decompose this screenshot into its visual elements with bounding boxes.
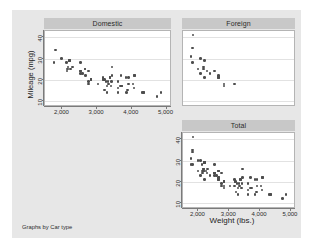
data-point [234, 180, 237, 183]
data-point [197, 68, 200, 71]
data-point [106, 91, 109, 94]
data-point [202, 66, 205, 69]
data-point [199, 174, 202, 177]
data-point [281, 197, 284, 200]
data-point [111, 66, 114, 69]
data-point [117, 80, 120, 83]
data-point [202, 68, 205, 71]
data-point [79, 61, 82, 64]
data-point [241, 182, 244, 185]
data-point [156, 95, 159, 98]
y-tick-label: 20 [175, 180, 181, 187]
data-point [192, 136, 195, 139]
y-axis-total: 10203040 [170, 132, 182, 208]
y-tick-label: 10 [175, 201, 181, 208]
data-point [69, 68, 72, 71]
data-point [223, 187, 226, 190]
y-tick-label: 20 [37, 78, 43, 85]
data-point [233, 185, 236, 188]
data-point [110, 80, 113, 83]
data-point [285, 193, 288, 196]
data-point [79, 72, 82, 75]
data-point [191, 151, 194, 154]
graph-surface: Mileage (mpg) Domestic 10203040 2,0003,0… [12, 10, 301, 238]
data-point [254, 193, 257, 196]
data-point [250, 187, 253, 190]
x-tick-label: 5,000 [158, 109, 173, 115]
x-tick-label: 4,000 [123, 109, 138, 115]
data-point [203, 76, 206, 79]
data-point [217, 176, 220, 179]
data-point [202, 168, 205, 171]
data-point [107, 83, 110, 86]
data-point [191, 47, 194, 50]
data-point [87, 70, 90, 73]
data-point [109, 76, 112, 79]
panel-title-foreign: Foreign [182, 18, 295, 29]
data-point [87, 80, 90, 83]
x-axis-line [44, 106, 171, 107]
y-tick-label: 30 [37, 57, 43, 64]
data-point [213, 174, 216, 177]
data-point [206, 70, 209, 73]
data-point [199, 72, 202, 75]
gridline [183, 37, 294, 38]
data-point [191, 149, 194, 152]
data-point [241, 168, 244, 171]
data-point [160, 91, 163, 94]
data-point [190, 157, 193, 160]
data-point [247, 193, 250, 196]
data-point [238, 185, 241, 188]
x-tick-label: 3,000 [89, 109, 104, 115]
x-axis-title: Weight (lbs.) [162, 216, 302, 225]
data-point [60, 57, 63, 60]
data-point [197, 170, 200, 173]
data-point [203, 161, 206, 164]
data-point [199, 57, 202, 60]
data-point [106, 85, 109, 88]
gridline [183, 203, 294, 204]
data-point [84, 68, 87, 71]
data-point [239, 178, 242, 181]
data-point [233, 83, 236, 86]
plot-area-foreign [182, 30, 295, 106]
data-point [213, 163, 216, 166]
data-point [127, 83, 130, 86]
panel-total: Total 10203040 2,0003,0004,0005,000 [182, 120, 295, 208]
data-point [121, 85, 124, 88]
panel-title-domestic: Domestic [44, 18, 171, 29]
data-point [223, 85, 226, 88]
data-point [209, 174, 212, 177]
data-point [229, 185, 232, 188]
data-point [66, 70, 69, 73]
y-axis-line [181, 132, 182, 208]
panel-domestic: Domestic 10203040 2,0003,0004,0005,000 [44, 18, 171, 106]
data-point [203, 59, 206, 62]
y-tick-label: 10 [37, 99, 43, 106]
data-point [102, 78, 105, 81]
y-tick-label: 40 [175, 137, 181, 144]
data-point [247, 189, 250, 192]
data-point [190, 55, 193, 58]
data-point [237, 193, 240, 196]
data-point [256, 185, 259, 188]
data-point [84, 74, 87, 77]
gridline [45, 101, 170, 102]
panel-title-total: Total [182, 120, 295, 131]
data-point [117, 91, 120, 94]
data-point [191, 61, 194, 64]
y-tick-label: 40 [37, 35, 43, 42]
data-point [237, 187, 240, 190]
graph-footnote: Graphs by Car type [22, 224, 72, 230]
gridline [45, 59, 170, 60]
panel-foreign: Foreign [182, 18, 295, 106]
data-point [132, 83, 135, 86]
plot-area-total [182, 132, 295, 208]
data-point [133, 87, 136, 90]
plot-area-domestic [44, 30, 171, 106]
data-point [54, 49, 57, 52]
data-point [65, 61, 68, 64]
gridline [183, 139, 294, 140]
y-axis-domestic: 10203040 [32, 30, 44, 106]
data-point [199, 159, 202, 162]
